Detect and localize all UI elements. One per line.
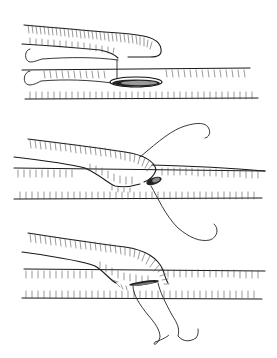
panel-step-3 — [22, 233, 265, 344]
recipient-vessel-2 — [14, 165, 265, 199]
donor-vessel-2 — [14, 139, 156, 192]
tied-sutures-3 — [133, 283, 198, 344]
panel-step-1 — [22, 25, 258, 99]
panel-step-2 — [14, 123, 265, 240]
recipient-vessel — [22, 68, 258, 99]
donor-vessel — [22, 25, 161, 58]
toe-opening-2 — [145, 175, 162, 187]
anastomosis-stitches — [112, 268, 169, 290]
arteriotomy-opening — [110, 77, 162, 87]
anastomosis-illustration — [0, 0, 277, 358]
stay-suture — [24, 49, 118, 85]
